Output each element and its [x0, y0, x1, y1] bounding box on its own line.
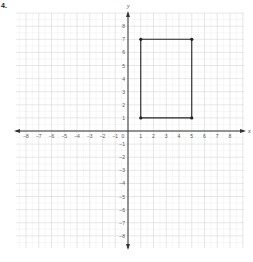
y-tick-label: 6	[122, 49, 125, 55]
y-axis-down-arrow-icon	[126, 244, 130, 250]
y-tick-label: −1	[119, 141, 125, 147]
x-tick-label: 1	[139, 133, 142, 139]
y-tick-label: 3	[122, 89, 125, 95]
vertex-point	[139, 38, 142, 41]
x-tick-label: −7	[36, 133, 42, 139]
vertex-point	[190, 38, 193, 41]
y-tick-label: −6	[119, 207, 125, 213]
y-tick-label: −7	[119, 220, 125, 226]
y-axis-label: y	[126, 3, 130, 9]
coordinate-plane: xy −8−7−6−5−4−3−2−101234567887654321−1−2…	[0, 0, 253, 262]
y-tick-label: 8	[122, 23, 125, 29]
y-tick-label: 1	[122, 115, 125, 121]
x-tick-label: −8	[23, 133, 29, 139]
y-tick-label: −5	[119, 194, 125, 200]
x-tick-label: −3	[87, 133, 93, 139]
x-tick-label: 5	[190, 133, 193, 139]
y-tick-label: 5	[122, 63, 125, 69]
y-axis-up-arrow-icon	[126, 11, 130, 17]
x-axis-label: x	[247, 128, 251, 134]
x-tick-label: −5	[61, 133, 67, 139]
y-tick-label: −4	[119, 180, 125, 186]
y-tick-label: −2	[119, 154, 125, 160]
x-tick-label: 6	[203, 133, 206, 139]
y-tick-label: 2	[122, 102, 125, 108]
x-axis-left-arrow-icon	[14, 129, 20, 133]
vertex-point	[139, 116, 142, 119]
x-tick-label: 7	[216, 133, 219, 139]
axes: xy	[14, 3, 251, 250]
y-tick-label: −3	[119, 167, 125, 173]
x-tick-label: 0	[122, 133, 125, 139]
y-tick-label: −8	[119, 233, 125, 239]
x-tick-label: −2	[100, 133, 106, 139]
y-tick-label: 4	[122, 76, 125, 82]
x-tick-label: 8	[229, 133, 232, 139]
x-tick-label: −1	[112, 133, 118, 139]
x-tick-label: 2	[152, 133, 155, 139]
y-tick-label: 7	[122, 36, 125, 42]
x-tick-label: 3	[165, 133, 168, 139]
x-tick-label: 4	[178, 133, 181, 139]
vertex-point	[190, 116, 193, 119]
x-tick-label: −4	[74, 133, 80, 139]
x-tick-label: −6	[49, 133, 55, 139]
